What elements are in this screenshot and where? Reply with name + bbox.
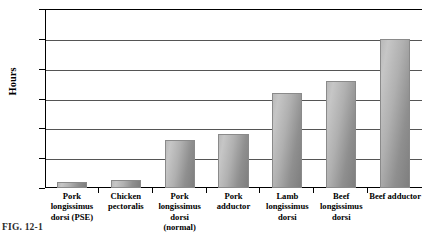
figure-container: Hours Pork longissimus dorsi (PSE)Chicke… <box>0 0 428 233</box>
y-tick-mark-30 <box>39 9 45 10</box>
y-tick-mark-10 <box>39 128 45 129</box>
y-tick-mark-0 <box>39 188 45 189</box>
y-tick-mark-5 <box>39 158 45 159</box>
gridline-10 <box>46 129 422 130</box>
gridline-5 <box>46 159 422 160</box>
x-axis-label-2: Pork longissimus dorsi (normal) <box>153 191 207 233</box>
x-axis-label-1: Chicken pectoralis <box>99 191 153 233</box>
y-tick-mark-25 <box>39 39 45 40</box>
y-axis-title: Hours <box>7 52 18 112</box>
x-axis-label-0: Pork longissimus dorsi (PSE) <box>45 191 99 233</box>
x-axis-label-4: Lamb longissimus dorsi <box>260 191 314 233</box>
gridline-20 <box>46 70 422 71</box>
plot-area <box>45 9 422 188</box>
x-axis-labels: Pork longissimus dorsi (PSE)Chicken pect… <box>45 191 422 233</box>
x-axis-label-5: Beef longissimus dorsi <box>314 191 368 233</box>
figure-caption: FIG. 12-1 <box>2 222 43 233</box>
gridline-15 <box>46 100 422 101</box>
y-tick-mark-15 <box>39 99 45 100</box>
x-axis-label-3: Pork adductor <box>207 191 261 233</box>
y-tick-mark-20 <box>39 69 45 70</box>
gridline-25 <box>46 40 422 41</box>
x-axis-label-6: Beef adductor <box>368 191 422 233</box>
